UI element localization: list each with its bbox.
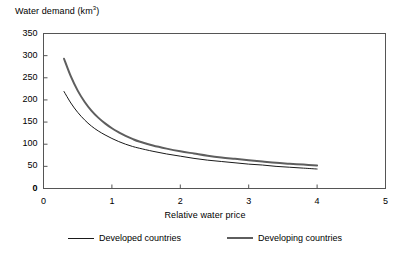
chart-legend: Developed countries Developing countries bbox=[0, 233, 410, 243]
x-tick-label: 3 bbox=[239, 196, 259, 206]
chart-figure: Water demand (km3) 050100150200250300350… bbox=[0, 0, 410, 260]
x-tick-label: 4 bbox=[307, 196, 327, 206]
x-tick-label: 5 bbox=[376, 196, 396, 206]
y-axis-title-base: Water demand (km bbox=[15, 6, 93, 16]
legend-item-developing: Developing countries bbox=[227, 233, 342, 243]
x-tick-label: 1 bbox=[102, 196, 122, 206]
plot-frame bbox=[44, 34, 386, 189]
y-tick-label: 150 bbox=[12, 116, 38, 126]
legend-swatch-developing-icon bbox=[227, 237, 253, 239]
legend-label-developing: Developing countries bbox=[258, 233, 342, 243]
y-tick-label: 200 bbox=[12, 94, 38, 104]
series-line-developed bbox=[64, 92, 317, 169]
legend-swatch-developed-icon bbox=[68, 238, 94, 239]
legend-label-developed: Developed countries bbox=[99, 233, 181, 243]
data-series bbox=[64, 59, 317, 169]
y-tick-label: 300 bbox=[12, 50, 38, 60]
plot-area bbox=[0, 0, 410, 260]
y-tick-label: 50 bbox=[12, 160, 38, 170]
y-tick-label: 100 bbox=[12, 138, 38, 148]
x-tick-label: 0 bbox=[34, 196, 54, 206]
axis-ticks bbox=[44, 56, 318, 189]
series-line-developing bbox=[64, 59, 317, 166]
x-tick-label: 2 bbox=[170, 196, 190, 206]
y-axis-title-close: ) bbox=[96, 6, 99, 16]
y-axis-title: Water demand (km3) bbox=[15, 6, 99, 16]
y-tick-label: 0 bbox=[12, 183, 38, 193]
legend-item-developed: Developed countries bbox=[68, 233, 181, 243]
y-tick-label: 350 bbox=[12, 28, 38, 38]
x-axis-title: Relative water price bbox=[0, 210, 410, 220]
y-tick-label: 250 bbox=[12, 72, 38, 82]
